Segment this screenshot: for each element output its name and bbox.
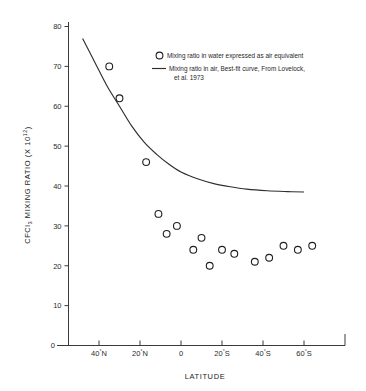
y-axis-title-prefix: CFCl xyxy=(23,224,32,243)
data-point-marker xyxy=(106,63,113,70)
data-point-marker xyxy=(231,250,238,257)
data-point-marker xyxy=(143,159,150,166)
x-tick-label: 20°S xyxy=(214,348,229,358)
y-tick-label: 30 xyxy=(53,222,61,231)
data-point-marker xyxy=(309,242,316,249)
y-tick-label: 20 xyxy=(53,262,61,271)
data-point-marker xyxy=(198,234,205,241)
x-axis xyxy=(57,334,345,346)
y-tick-label: 60 xyxy=(53,102,61,111)
data-point-marker xyxy=(155,211,162,218)
y-axis-title: CFCl3 MIXING RATIO (X 1012) xyxy=(22,126,33,244)
legend-open-circle-icon xyxy=(156,52,163,59)
y-tick-label: 70 xyxy=(53,62,61,71)
x-tick-label: 60°S xyxy=(296,348,311,358)
legend-label-air-line2: et al. 1973 xyxy=(174,74,204,81)
chart-figure: 1020304050607080 0 40°N20°N020°S40°S60°S… xyxy=(0,0,366,391)
data-point-marker xyxy=(206,262,213,269)
data-point-marker xyxy=(116,95,123,102)
y-tick-group: 1020304050607080 xyxy=(53,22,68,310)
data-point-marker xyxy=(294,246,301,253)
legend-label-air: Mixing ratio in air, Best-fit curve, Fro… xyxy=(169,65,305,73)
x-tick-label: 20°N xyxy=(132,348,148,358)
data-point-marker xyxy=(190,246,197,253)
y-tick-label: 40 xyxy=(53,182,61,191)
data-point-marker xyxy=(219,246,226,253)
data-point-marker xyxy=(280,242,287,249)
data-point-marker xyxy=(163,230,170,237)
y-axis-title-superscript: 12 xyxy=(22,129,28,136)
svg-text:CFCl3 MIXING RATIO (X 1012): CFCl3 MIXING RATIO (X 1012) xyxy=(22,126,33,244)
y-tick-label: 10 xyxy=(53,301,61,310)
y-axis-title-suffix: ) xyxy=(23,126,32,129)
x-tick-label: 0 xyxy=(179,349,183,358)
data-point-marker xyxy=(174,222,181,229)
x-tick-label: 40°N xyxy=(91,348,107,358)
x-tick-label: 40°S xyxy=(255,348,270,358)
y-axis-origin-label: 0 xyxy=(51,341,55,350)
best-fit-curve-path xyxy=(83,38,304,192)
y-tick-label: 50 xyxy=(53,142,61,151)
y-axis-title-middle: MIXING RATIO (X 10 xyxy=(23,136,32,221)
data-point-marker xyxy=(251,258,258,265)
y-tick-label: 80 xyxy=(53,22,61,31)
scatter-marker-group xyxy=(106,63,316,269)
chart-legend: Mixing ratio in water expressed as air e… xyxy=(152,52,305,81)
data-point-marker xyxy=(266,254,273,261)
x-tick-group: 40°N20°N020°S40°S60°S xyxy=(91,341,312,358)
legend-label-water: Mixing ratio in water expressed as air e… xyxy=(167,52,304,60)
x-axis-title: LATITUDE xyxy=(185,372,226,381)
